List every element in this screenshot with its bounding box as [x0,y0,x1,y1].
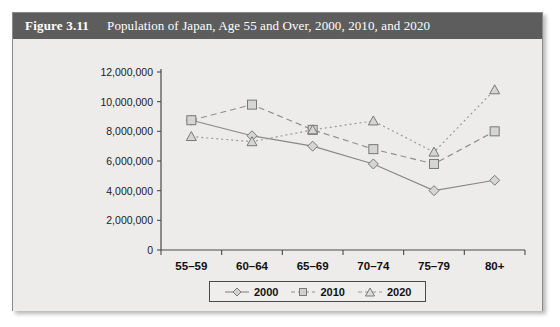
legend-swatch-diamond-icon [224,286,250,298]
x-axis-tick-label: 65–69 [297,260,329,272]
chart-legend: 2000 2010 2020 [209,281,426,302]
series-markers [186,85,499,196]
legend-swatch-triangle-icon [357,286,383,298]
data-point-2020-60–64[interactable] [247,137,257,146]
y-axis-tick-label: 8,000,000 [106,125,153,137]
data-point-2020-80+[interactable] [490,85,500,94]
figure-card: Figure 3.11 Population of Japan, Age 55 … [12,12,543,311]
data-point-2010-70–74[interactable] [369,145,378,154]
x-axis-tick-label: 60–64 [236,260,268,272]
figure-number: Figure 3.11 [25,18,89,34]
data-point-2010-55–59[interactable] [187,116,196,125]
y-axis-tick-label: 2,000,000 [106,214,153,226]
y-axis-tick-label: 6,000,000 [106,155,153,167]
line-chart: 02,000,0004,000,0006,000,0008,000,00010,… [13,39,544,311]
y-axis-tick-label: 4,000,000 [106,185,153,197]
data-point-2020-70–74[interactable] [368,116,378,125]
data-point-2000-65–69[interactable] [308,141,318,151]
x-axis-tick-label: 70–74 [357,260,389,272]
data-point-2010-60–64[interactable] [248,100,257,109]
x-axis-ticks [161,250,525,255]
data-point-2000-75–79[interactable] [429,186,439,196]
figure-body: 02,000,0004,000,0006,000,0008,000,00010,… [13,39,542,311]
legend-entry-2010[interactable]: 2010 [290,286,344,298]
figure-title: Population of Japan, Age 55 and Over, 20… [107,18,430,34]
chart-plot-svg [13,39,544,311]
y-axis-tick-label: 10,000,000 [100,96,153,108]
legend-label-2020: 2020 [387,286,411,298]
data-point-2020-75–79[interactable] [429,147,439,156]
legend-entry-2000[interactable]: 2000 [224,286,278,298]
series-line-2020 [191,90,494,152]
series-lines [191,90,494,191]
y-axis-tick-label: 0 [147,244,153,256]
data-point-2020-55–59[interactable] [186,132,196,141]
x-axis-tick-label: 75–79 [418,260,450,272]
data-point-2000-70–74[interactable] [368,159,378,169]
data-point-2000-80+[interactable] [490,175,500,185]
figure-header: Figure 3.11 Population of Japan, Age 55 … [13,13,542,39]
data-point-2010-80+[interactable] [490,127,499,136]
legend-swatch-square-icon [290,286,316,298]
legend-label-2010: 2010 [320,286,344,298]
x-axis-tick-label: 80+ [485,260,505,272]
y-axis-tick-label: 12,000,000 [100,66,153,78]
legend-label-2000: 2000 [254,286,278,298]
legend-entry-2020[interactable]: 2020 [357,286,411,298]
data-point-2010-75–79[interactable] [430,159,439,168]
x-axis-tick-label: 55–59 [175,260,207,272]
